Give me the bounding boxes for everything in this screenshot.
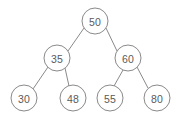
node-label-35: 35 — [51, 53, 63, 65]
tree-node-30[interactable]: 30 — [11, 85, 37, 111]
binary-search-tree-diagram: 50 35 60 30 48 55 80 — [0, 0, 182, 121]
tree-node-80[interactable]: 80 — [144, 85, 170, 111]
node-label-30: 30 — [18, 93, 30, 105]
tree-node-48[interactable]: 48 — [60, 85, 86, 111]
tree-node-root-50[interactable]: 50 — [82, 8, 108, 34]
tree-node-55[interactable]: 55 — [97, 85, 123, 111]
node-label-80: 80 — [151, 93, 163, 105]
node-label-48: 48 — [67, 93, 79, 105]
node-label-60: 60 — [122, 53, 134, 65]
node-label-50: 50 — [89, 16, 101, 28]
node-label-55: 55 — [104, 93, 116, 105]
tree-node-60[interactable]: 60 — [115, 45, 141, 71]
tree-node-35[interactable]: 35 — [44, 45, 70, 71]
